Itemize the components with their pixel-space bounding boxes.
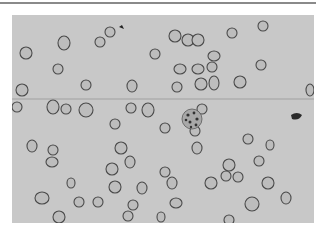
top-rule [0, 2, 316, 4]
cells-layer [12, 15, 314, 223]
micrograph [12, 15, 314, 223]
granular-cell [182, 109, 202, 129]
red-blood-cells [12, 21, 314, 223]
